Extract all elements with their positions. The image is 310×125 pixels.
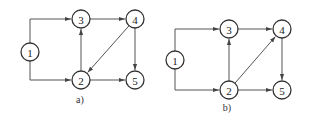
edge-1-to-3 [175, 29, 219, 51]
node-label: 4 [132, 14, 138, 26]
node-label: 1 [27, 47, 33, 59]
node-label: 3 [226, 24, 232, 36]
diagram-a-nodes: 13425 [21, 10, 144, 89]
node-3: 3 [72, 10, 90, 28]
node-2: 2 [72, 71, 90, 89]
node-1: 1 [166, 51, 184, 69]
diagram-a-caption: a) [76, 94, 84, 106]
edge-2-to-4 [235, 37, 276, 84]
node-3: 3 [220, 20, 238, 38]
node-label: 1 [172, 55, 178, 67]
node-label: 5 [279, 85, 285, 97]
node-2: 2 [220, 81, 238, 99]
node-label: 4 [279, 24, 285, 36]
node-5: 5 [273, 81, 291, 99]
edge-4-to-2 [88, 26, 129, 73]
edge-1-to-2 [175, 69, 219, 90]
node-label: 5 [132, 75, 138, 87]
diagram-b: 13425 b) [166, 20, 291, 114]
node-1: 1 [21, 43, 39, 61]
node-4: 4 [273, 20, 291, 38]
node-label: 2 [226, 85, 232, 97]
diagram-b-caption: b) [223, 102, 231, 114]
edge-1-to-2 [30, 61, 71, 80]
diagram-a: 13425 a) [21, 10, 144, 106]
graph-diagrams-canvas: 13425 a) 13425 b) [0, 0, 310, 125]
node-label: 3 [78, 14, 84, 26]
node-4: 4 [126, 10, 144, 28]
node-label: 2 [78, 75, 84, 87]
edge-1-to-3 [30, 19, 71, 43]
node-5: 5 [126, 71, 144, 89]
